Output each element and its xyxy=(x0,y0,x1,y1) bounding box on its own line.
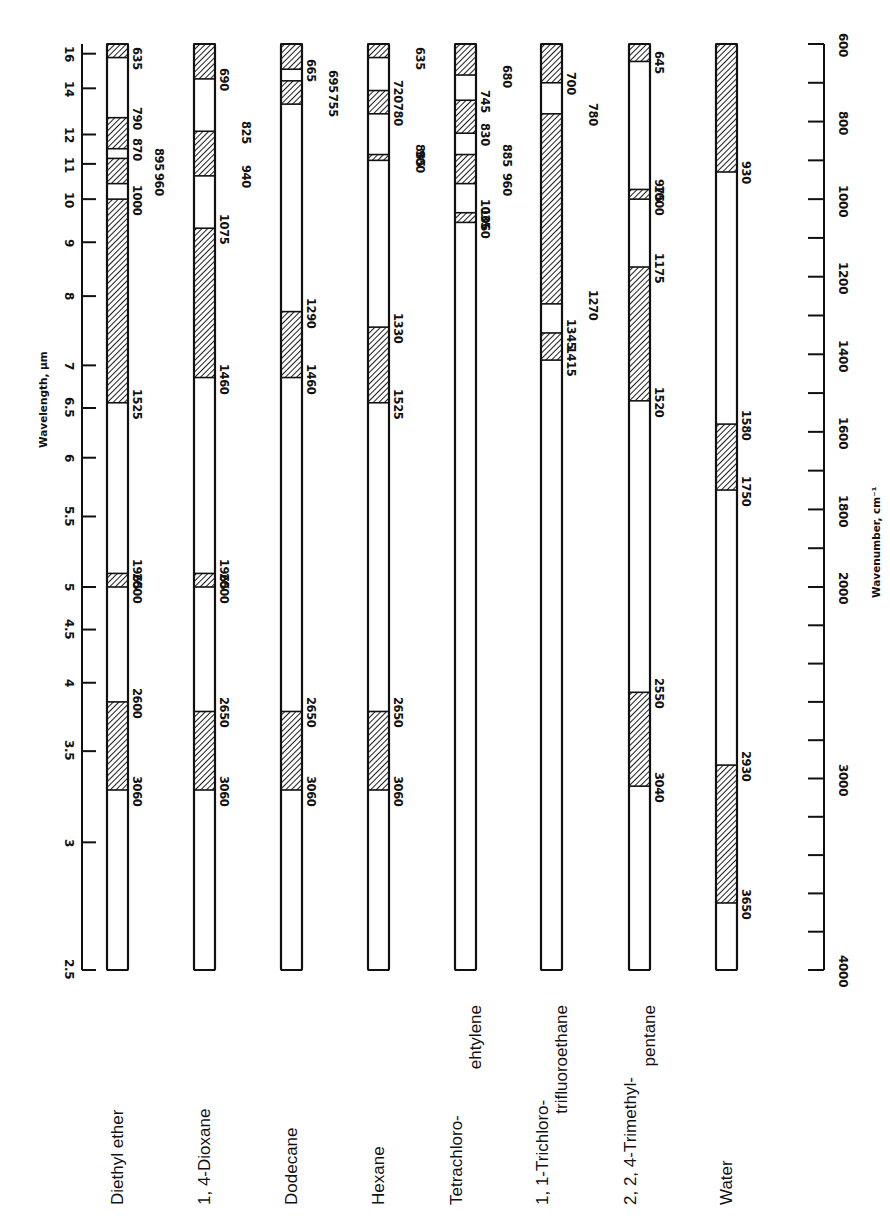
wavelength-tick-label: 6.5 xyxy=(62,397,76,417)
absorption-band xyxy=(368,711,389,790)
solvent-bar xyxy=(455,44,476,970)
wavenumber-tick-label: 1000 xyxy=(836,185,850,217)
wavelength-tick-label: 3.5 xyxy=(62,740,76,760)
absorption-band xyxy=(716,765,737,903)
solvent-name-label: Diethyl ether xyxy=(108,1005,127,1205)
wavenumber-tick-label: 1600 xyxy=(836,417,850,449)
wavelength-tick-label: 3 xyxy=(62,839,76,847)
band-edge-label: 1525 xyxy=(130,389,144,419)
absorption-band xyxy=(629,692,650,786)
wavelength-tick-label: 10 xyxy=(62,192,76,208)
solvent-name-line1: Tetrachloro- xyxy=(447,1005,466,1205)
band-edge-label: 2000 xyxy=(130,573,144,603)
solvent-name-line1: Dodecane xyxy=(282,1005,301,1205)
solvent-name-label: 1, 4-Dioxane xyxy=(195,1005,214,1205)
absorption-band xyxy=(629,44,650,61)
band-edge-label: 720 xyxy=(391,80,405,103)
band-edge-label: 2930 xyxy=(739,751,753,781)
band-edge-label: 2650 xyxy=(391,697,405,727)
solvent-name-line1: Water xyxy=(717,1005,736,1205)
absorption-band xyxy=(716,44,737,172)
band-edge-label: 695 xyxy=(326,70,340,93)
absorption-band xyxy=(194,711,215,790)
band-edge-label: 885 xyxy=(500,144,514,167)
band-edge-label: 1330 xyxy=(391,313,405,343)
solvent-name-label: Hexane xyxy=(369,1005,388,1205)
absorption-band xyxy=(107,199,128,403)
wavenumber-tick-label: 1200 xyxy=(836,262,850,294)
band-edge-label: 780 xyxy=(391,103,405,126)
band-edge-label: 635 xyxy=(413,47,427,70)
absorption-band xyxy=(629,189,650,199)
band-edge-label: 1000 xyxy=(130,185,144,215)
absorption-band xyxy=(281,312,302,378)
absorption-band xyxy=(541,114,562,304)
band-edge-label: 780 xyxy=(586,103,600,126)
wavelength-tick-label: 14 xyxy=(62,81,76,97)
solvent-bars xyxy=(107,44,737,970)
wavenumber-axis xyxy=(808,44,824,970)
band-edge-label: 3060 xyxy=(391,776,405,806)
wavelength-tick-label: 4 xyxy=(62,679,76,687)
absorption-band xyxy=(281,711,302,790)
absorption-band xyxy=(455,155,476,184)
band-edge-label: 3060 xyxy=(130,776,144,806)
solvent-name-line1: Diethyl ether xyxy=(108,1005,127,1205)
absorption-band xyxy=(541,333,562,360)
band-edge-label: 2650 xyxy=(217,697,231,727)
absorption-band xyxy=(281,44,302,69)
band-edge-label: 690 xyxy=(217,68,231,91)
band-edge-label: 1345 xyxy=(564,319,578,349)
wavelength-tick-label: 4.5 xyxy=(62,619,76,639)
band-edge-label: 2550 xyxy=(652,678,666,708)
solvent-bar xyxy=(629,44,650,970)
solvent-name-line1: Hexane xyxy=(369,1005,388,1205)
band-edge-label: 1525 xyxy=(391,389,405,419)
wavelength-tick-label: 12 xyxy=(62,127,76,143)
wavenumber-tick-label: 4000 xyxy=(836,955,850,987)
wavelength-axis-title: Wavelength, μm xyxy=(37,351,49,448)
band-edge-label: 1520 xyxy=(652,387,666,417)
band-edge-label: 665 xyxy=(304,59,318,82)
wavelength-tick-label: 9 xyxy=(62,239,76,247)
solvent-name-line1: 1, 4-Dioxane xyxy=(195,1005,214,1205)
solvent-name-line1: 1, 1-Trichloro- xyxy=(533,1005,552,1205)
solvent-bar xyxy=(541,44,562,970)
band-edge-label: 1175 xyxy=(652,253,666,283)
absorption-band xyxy=(281,81,302,104)
band-edge-label: 2650 xyxy=(304,697,318,727)
wavenumber-tick-label: 1800 xyxy=(836,495,850,527)
absorption-band xyxy=(455,44,476,75)
band-edge-label: 1060 xyxy=(478,208,492,238)
band-edge-label: 940 xyxy=(239,165,253,188)
wavelength-tick-label: 7 xyxy=(62,362,76,370)
band-edge-label: 1580 xyxy=(739,410,753,440)
band-edge-label: 1000 xyxy=(652,185,666,215)
solvent-name-label: 1, 1-Trichloro-trifluoroethane xyxy=(533,1005,571,1205)
band-edge-label: 3060 xyxy=(304,776,318,806)
absorption-band xyxy=(368,44,389,58)
band-edge-label: 895 xyxy=(152,148,166,171)
solvent-name-label: Tetrachloro-ehtylene xyxy=(447,1005,485,1205)
solvent-name-line2: ehtylene xyxy=(466,1005,485,1205)
band-edge-label: 2600 xyxy=(130,688,144,718)
wavenumber-tick-label: 800 xyxy=(836,111,850,135)
wavenumber-axis-title: Wavenumber, cm⁻¹ xyxy=(870,487,882,598)
absorption-band xyxy=(107,573,128,587)
band-edge-label: 745 xyxy=(478,90,492,113)
band-edge-label: 790 xyxy=(130,107,144,130)
absorption-band xyxy=(455,100,476,133)
wavelength-tick-label: 5.5 xyxy=(62,506,76,526)
absorption-band xyxy=(107,118,128,149)
absorption-band xyxy=(194,44,215,79)
band-edge-label: 825 xyxy=(239,121,253,144)
solvent-bar xyxy=(107,44,128,970)
wavelength-tick-label: 2.5 xyxy=(62,959,76,979)
band-edge-label: 1750 xyxy=(739,476,753,506)
band-edge-label: 900 xyxy=(413,150,427,173)
band-edge-label: 1460 xyxy=(304,364,318,394)
wavenumber-tick-label: 600 xyxy=(836,33,850,57)
band-edge-label: 1075 xyxy=(217,214,231,244)
solvent-name-label: Dodecane xyxy=(282,1005,301,1205)
wavenumber-tick-label: 2000 xyxy=(836,572,850,604)
